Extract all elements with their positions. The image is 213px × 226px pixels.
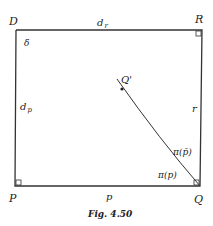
edge-label-left: dp xyxy=(20,101,32,114)
vertex-R: R xyxy=(194,13,203,26)
vertex-D: D xyxy=(8,15,18,28)
figure-caption: Fig. 4.50 xyxy=(87,209,133,219)
edge-label-top: dr xyxy=(97,17,108,30)
right-angle-R xyxy=(196,31,201,36)
curve-label-lower: π(p) xyxy=(157,170,177,180)
edge-label-bottom: p xyxy=(106,191,113,202)
edge-label-right: r xyxy=(192,103,198,114)
angle-delta: δ xyxy=(24,38,29,48)
curve-label-upper: π(p̄) xyxy=(172,147,192,157)
vertex-Q: Q xyxy=(194,193,203,206)
quadrilateral-diagram: D R P Q dr dp r p δ Q' π(p̄) π(p) Fig. 4… xyxy=(0,0,213,226)
right-angle-P xyxy=(16,180,21,185)
quadrilateral-edges xyxy=(15,30,202,186)
vertex-P: P xyxy=(8,192,17,205)
point-Q-prime xyxy=(120,87,123,90)
label-Q-prime: Q' xyxy=(121,74,132,85)
